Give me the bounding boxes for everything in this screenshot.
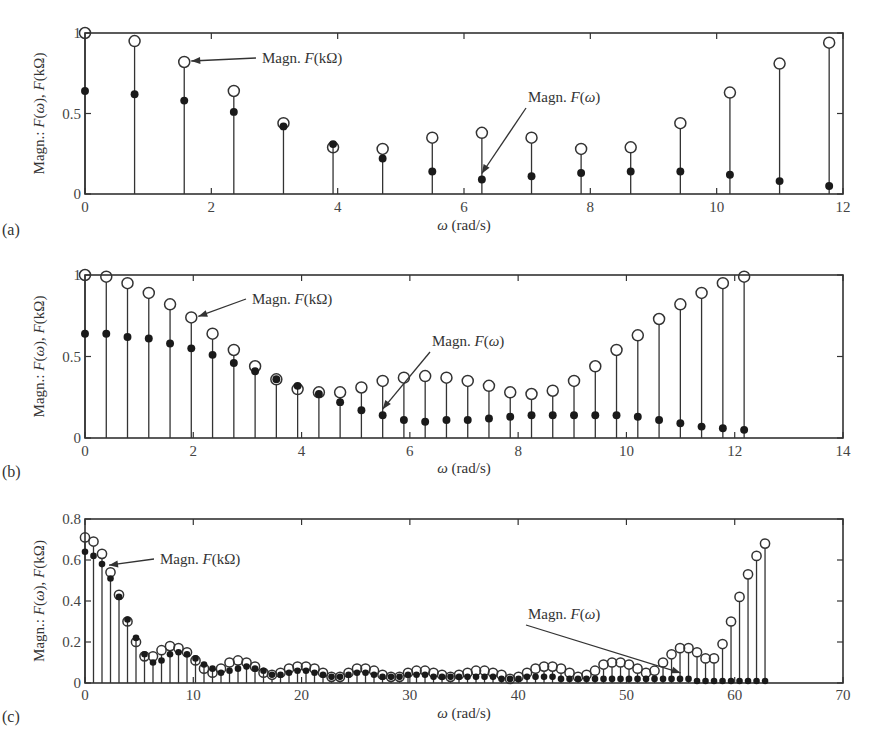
open-circle-marker xyxy=(165,299,176,310)
open-circle-marker xyxy=(143,287,154,298)
open-circle-marker xyxy=(633,664,642,673)
filled-dot-marker xyxy=(329,140,337,148)
filled-dot-marker xyxy=(711,678,718,685)
x-axis-label: ω (rad/s) xyxy=(437,460,491,477)
x-tick-label: 2 xyxy=(208,199,216,215)
x-tick-label: 20 xyxy=(294,687,309,703)
panel-label: (b) xyxy=(2,463,21,481)
open-circle-marker xyxy=(611,344,622,355)
filled-dot-marker xyxy=(651,676,658,683)
filled-dot-marker xyxy=(753,678,760,685)
filled-dot-marker xyxy=(485,414,493,422)
open-circle-marker xyxy=(650,666,659,675)
filled-dot-marker xyxy=(719,678,726,685)
filled-dot-marker xyxy=(481,674,488,681)
filled-dot-marker xyxy=(337,674,344,681)
filled-dot-marker xyxy=(81,87,89,95)
open-circle-marker xyxy=(157,646,166,655)
annotation-label: Magn. F(kΩ) xyxy=(252,291,332,308)
filled-dot-marker xyxy=(286,669,293,676)
annotation-label: Magn. F(ω) xyxy=(432,333,504,350)
filled-dot-marker xyxy=(627,168,635,176)
filled-dot-marker xyxy=(726,171,734,179)
filled-dot-marker xyxy=(478,176,486,184)
filled-dot-marker xyxy=(575,676,582,683)
filled-dot-marker xyxy=(175,649,182,656)
filled-dot-marker xyxy=(702,678,709,685)
filled-dot-marker xyxy=(243,663,250,670)
open-circle-marker xyxy=(356,382,367,393)
filled-dot-marker xyxy=(320,671,327,678)
annotation-label: Magn. F(kΩ) xyxy=(160,551,240,568)
filled-dot-marker xyxy=(694,678,701,685)
filled-dot-marker xyxy=(218,669,225,676)
filled-dot-marker xyxy=(745,678,752,685)
filled-dot-marker xyxy=(421,418,429,426)
filled-dot-marker xyxy=(428,168,436,176)
open-circle-marker xyxy=(186,312,197,323)
y-tick-label: 0.8 xyxy=(62,511,81,527)
filled-dot-marker xyxy=(280,122,288,130)
filled-dot-marker xyxy=(413,671,420,678)
open-circle-marker xyxy=(632,330,643,341)
annotation-arrow xyxy=(482,108,526,174)
filled-dot-marker xyxy=(660,676,667,683)
open-circle-marker xyxy=(569,375,580,386)
open-circle-marker xyxy=(718,639,727,648)
filled-dot-marker xyxy=(379,155,387,163)
x-tick-label: 30 xyxy=(402,687,417,703)
filled-dot-marker xyxy=(422,671,429,678)
arrow-head-icon xyxy=(198,310,208,317)
x-axis-label: ω (rad/s) xyxy=(437,705,491,722)
filled-dot-marker xyxy=(230,359,238,367)
filled-dot-marker xyxy=(498,676,505,683)
x-tick-label: 10 xyxy=(709,199,724,215)
y-tick-label: 0 xyxy=(74,675,82,691)
open-circle-marker xyxy=(97,549,106,558)
filled-dot-marker xyxy=(294,382,302,390)
y-axis-label: Magn.: F(ω), F(kΩ) xyxy=(31,53,48,175)
filled-dot-marker xyxy=(613,411,621,419)
open-circle-marker xyxy=(129,36,140,47)
x-tick-label: 50 xyxy=(619,687,634,703)
open-circle-marker xyxy=(735,592,744,601)
open-circle-marker xyxy=(377,143,388,154)
y-tick-label: 0.5 xyxy=(62,349,81,365)
open-circle-marker xyxy=(89,537,98,546)
x-tick-label: 0 xyxy=(81,687,89,703)
filled-dot-marker xyxy=(226,667,233,674)
y-tick-label: 0.5 xyxy=(62,106,81,122)
x-tick-label: 12 xyxy=(836,199,851,215)
filled-dot-marker xyxy=(209,665,216,672)
y-tick-label: 0.6 xyxy=(62,552,81,568)
filled-dot-marker xyxy=(592,676,599,683)
open-circle-marker xyxy=(483,380,494,391)
filled-dot-marker xyxy=(269,671,276,678)
filled-dot-marker xyxy=(634,413,642,421)
open-circle-marker xyxy=(590,361,601,372)
filled-dot-marker xyxy=(549,674,556,681)
chart-panel-a: 02468101200.51Magn. F(kΩ)Magn. F(ω)ω (ra… xyxy=(2,25,851,239)
open-circle-marker xyxy=(824,37,835,48)
filled-dot-marker xyxy=(251,367,259,375)
filled-dot-marker xyxy=(158,657,165,664)
filled-dot-marker xyxy=(400,416,408,424)
filled-dot-marker xyxy=(379,411,387,419)
filled-dot-marker xyxy=(252,665,259,672)
open-circle-marker xyxy=(576,143,587,154)
filled-dot-marker xyxy=(272,375,280,383)
panel-label: (a) xyxy=(2,221,20,239)
arrow-head-icon xyxy=(482,164,490,173)
filled-dot-marker xyxy=(591,411,599,419)
filled-dot-marker xyxy=(442,416,450,424)
filled-dot-marker xyxy=(685,676,692,683)
filled-dot-marker xyxy=(549,411,557,419)
filled-dot-marker xyxy=(116,594,123,601)
filled-dot-marker xyxy=(396,674,403,681)
filled-dot-marker xyxy=(698,423,706,431)
x-tick-label: 8 xyxy=(514,443,522,459)
x-tick-label: 6 xyxy=(460,199,468,215)
y-tick-label: 0.4 xyxy=(62,593,81,609)
x-tick-label: 10 xyxy=(619,443,634,459)
filled-dot-marker xyxy=(719,424,727,432)
